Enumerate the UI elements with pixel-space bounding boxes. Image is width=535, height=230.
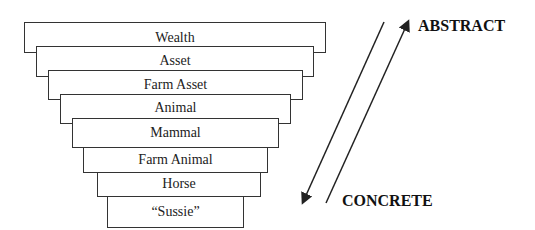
level-label: “Sussie” (108, 204, 243, 220)
arrow-up-to-abstract (326, 22, 408, 203)
level-label: Horse (98, 176, 260, 192)
level-label: Mammal (73, 125, 278, 141)
level-box: Horse (97, 172, 261, 197)
level-label: Asset (37, 53, 313, 69)
level-box: “Sussie” (107, 196, 244, 228)
level-box: Farm Animal (83, 147, 268, 173)
concrete-label: CONCRETE (342, 192, 433, 210)
level-label: Farm Animal (84, 152, 267, 168)
level-box: Mammal (72, 118, 279, 148)
level-label: Wealth (25, 30, 325, 46)
level-label: Farm Asset (49, 77, 302, 93)
abstract-label: ABSTRACT (418, 17, 505, 35)
level-label: Animal (61, 100, 290, 116)
